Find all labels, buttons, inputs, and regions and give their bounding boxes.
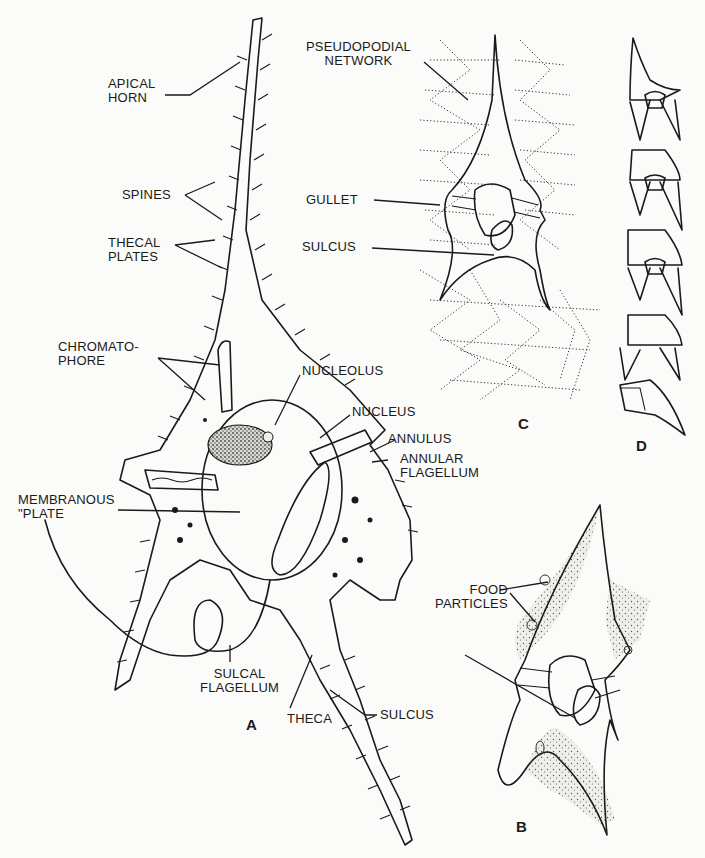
panel-label-b: B [516,818,527,835]
panel-d-chain [620,38,685,435]
label-food-particles: FOOD PARTICLES [435,583,508,611]
label-gullet: GULLET [306,193,358,207]
label-thecal-plates: THECAL PLATES [108,236,161,264]
illustration [0,0,705,858]
panel-label-a: A [246,716,257,733]
leaders-a [118,62,395,715]
panel-a-organism [45,18,418,845]
panel-c-organism [420,35,600,400]
label-sulcus-c: SULCUS [302,240,356,254]
nucleolus-shape [208,425,272,465]
label-pseudopodial-network: PSEUDOPODIAL NETWORK [306,40,411,68]
spines-decor [117,34,418,819]
label-nucleus: NUCLEUS [352,405,416,419]
label-spines: SPINES [122,188,171,202]
panel-label-d: D [636,437,647,454]
panel-label-c: C [518,415,529,432]
nucleus-shape [202,400,342,580]
label-chromatophore: CHROMATO- PHORE [58,340,139,368]
leaders-c [372,62,494,255]
figure-canvas: APICAL HORN SPINES THECAL PLATES CHROMAT… [0,0,705,858]
label-sulcus-a: SULCUS [380,708,434,722]
label-theca: THECA [287,712,332,726]
label-membranous-plate: MEMBRANOUS "PLATE [18,493,115,521]
label-sulcal-flagellum: SULCAL FLAGELLUM [200,667,279,695]
label-apical-horn: APICAL HORN [108,77,155,105]
sulcus-shape [272,462,329,575]
label-annulus: ANNULUS [388,432,452,446]
label-nucleolus: NUCLEOLUS [302,364,383,378]
annulus-band [145,470,218,490]
sulcal-flagellum [45,520,270,656]
panel-b-organism [498,505,650,835]
label-annular-flagellum: ANNULAR FLAGELLUM [400,452,479,480]
